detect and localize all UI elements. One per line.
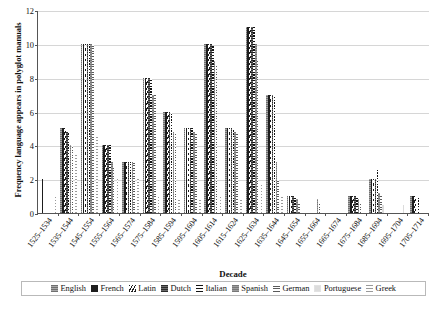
y-axis-title: Frequency language appears in polyglot m… bbox=[13, 0, 23, 220]
legend-label: Italian bbox=[205, 284, 226, 293]
legend-label: Dutch bbox=[170, 284, 190, 293]
legend-swatch-icon bbox=[161, 285, 168, 292]
legend-swatch-icon bbox=[196, 285, 203, 292]
bar-group bbox=[347, 11, 368, 213]
y-tick-label: 12 bbox=[26, 7, 34, 16]
legend-item: Italian bbox=[196, 284, 227, 293]
bar bbox=[281, 196, 283, 213]
polyglot-manual-frequency-chart: Frequency language appears in polyglot m… bbox=[0, 0, 434, 316]
bar bbox=[158, 196, 160, 213]
bar bbox=[382, 205, 384, 213]
bar-group bbox=[161, 11, 182, 213]
legend-item: Greek bbox=[366, 284, 396, 293]
bar-group bbox=[182, 11, 203, 213]
y-tick-label: 10 bbox=[26, 40, 34, 49]
bar-group bbox=[306, 11, 327, 213]
bar bbox=[240, 198, 242, 213]
bar bbox=[55, 196, 57, 213]
legend-swatch-icon bbox=[314, 285, 321, 292]
legend-swatch-icon bbox=[91, 285, 98, 292]
x-axis-tick-labels: 1525–15341535–15441545–15541555–15641565… bbox=[37, 214, 429, 274]
bar bbox=[277, 179, 279, 213]
x-tick-cell: 1705–1714 bbox=[408, 214, 429, 274]
bar-group bbox=[408, 11, 429, 213]
legend-label: French bbox=[101, 284, 124, 293]
chart-legend: EnglishFrenchLatinDutchItalianSpanishGer… bbox=[21, 281, 426, 296]
bar bbox=[216, 66, 218, 213]
bar bbox=[199, 198, 201, 213]
bar bbox=[414, 196, 416, 213]
legend-item: French bbox=[91, 284, 124, 293]
bar bbox=[133, 162, 135, 213]
legend-label: Spanish bbox=[241, 284, 268, 293]
y-tick-label: 2 bbox=[30, 176, 34, 185]
bar bbox=[298, 203, 300, 213]
legend-item: German bbox=[273, 284, 309, 293]
x-axis-title: Decade bbox=[37, 269, 429, 279]
bar bbox=[96, 137, 98, 213]
y-tick-label: 8 bbox=[30, 74, 34, 83]
bar-group bbox=[264, 11, 285, 213]
bar-group bbox=[367, 11, 388, 213]
figure-caption bbox=[6, 306, 426, 316]
bar-group bbox=[120, 11, 141, 213]
bar bbox=[319, 203, 321, 213]
bar bbox=[178, 198, 180, 213]
bar bbox=[154, 95, 156, 213]
bar bbox=[42, 179, 44, 213]
legend-swatch-icon bbox=[129, 285, 136, 292]
bar bbox=[403, 205, 405, 213]
bar bbox=[360, 203, 362, 213]
bar-group bbox=[141, 11, 162, 213]
bar bbox=[92, 44, 94, 213]
legend-label: Latin bbox=[138, 284, 156, 293]
legend-item: Spanish bbox=[232, 284, 268, 293]
legend-label: German bbox=[282, 284, 309, 293]
legend-swatch-icon bbox=[273, 285, 280, 292]
y-tick-label: 4 bbox=[30, 142, 34, 151]
legend-swatch-icon bbox=[366, 285, 373, 292]
legend-label: Portuguese bbox=[324, 284, 361, 293]
legend-label: English bbox=[60, 284, 86, 293]
legend-swatch-icon bbox=[232, 285, 239, 292]
bar bbox=[418, 198, 420, 213]
bar-group bbox=[326, 11, 347, 213]
bar-group bbox=[59, 11, 80, 213]
bar-group bbox=[79, 11, 100, 213]
legend-item: Latin bbox=[129, 284, 156, 293]
legend-item: Portuguese bbox=[314, 284, 361, 293]
y-tick-label: 0 bbox=[30, 210, 34, 219]
bar bbox=[75, 154, 77, 213]
bar bbox=[72, 145, 74, 213]
legend-label: Greek bbox=[376, 284, 396, 293]
bar-group bbox=[100, 11, 121, 213]
bar bbox=[195, 132, 197, 213]
bar-group bbox=[388, 11, 409, 213]
legend-item: Dutch bbox=[161, 284, 191, 293]
bar-group bbox=[223, 11, 244, 213]
y-tick-label: 6 bbox=[30, 108, 34, 117]
plot-area: 024681012 bbox=[37, 11, 429, 214]
bar-group bbox=[38, 11, 59, 213]
legend-swatch-icon bbox=[51, 285, 58, 292]
bar-groups bbox=[38, 11, 429, 213]
bar bbox=[236, 132, 238, 213]
bar bbox=[113, 166, 115, 213]
bar bbox=[220, 196, 222, 213]
bar bbox=[175, 132, 177, 213]
legend-item: English bbox=[51, 284, 86, 293]
bar-group bbox=[244, 11, 265, 213]
bar bbox=[117, 179, 119, 213]
bar bbox=[261, 183, 263, 213]
bar bbox=[257, 61, 259, 213]
bar bbox=[137, 179, 139, 213]
bar-group bbox=[285, 11, 306, 213]
bar-group bbox=[203, 11, 224, 213]
